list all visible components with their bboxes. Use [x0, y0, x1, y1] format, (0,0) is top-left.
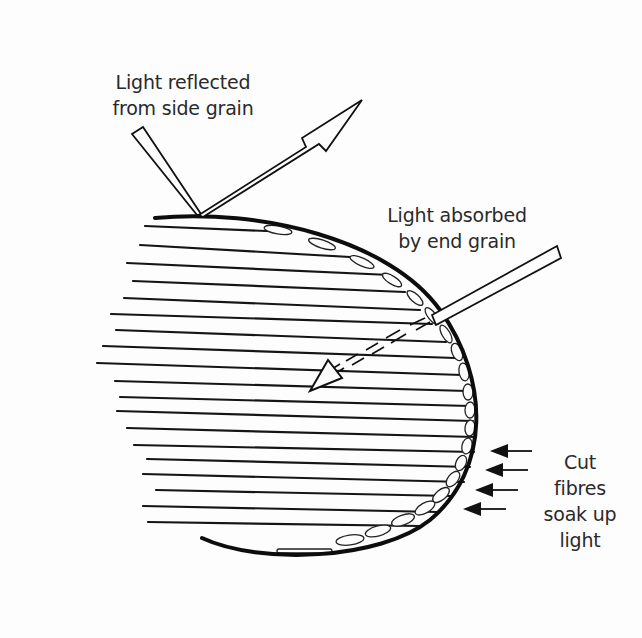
grain-lines — [97, 226, 475, 526]
label-line: Light absorbed — [382, 202, 532, 228]
label-cut-fibres: Cut fibres soak up light — [530, 449, 630, 553]
grain-line — [120, 397, 470, 406]
grain-line — [111, 314, 432, 324]
grain-line — [133, 281, 405, 292]
grain-line — [115, 381, 467, 391]
grain-line — [156, 490, 452, 496]
label-line: Cut — [530, 449, 630, 475]
wood-grain-light-diagram: Light reflected from side grain Light ab… — [0, 0, 642, 638]
grain-line — [124, 298, 420, 310]
arrow-left-icon — [463, 502, 506, 516]
grain-line — [97, 363, 462, 375]
label-light-absorbed: Light absorbed by end grain — [382, 202, 532, 254]
grain-line — [127, 263, 390, 275]
incident-beam-absorbed — [432, 246, 561, 325]
label-line: by end grain — [382, 228, 532, 254]
arrow-left-icon — [485, 463, 528, 477]
grain-line — [143, 506, 438, 512]
grain-line — [134, 445, 474, 452]
grain-line — [117, 411, 473, 421]
arrow-left-icon — [475, 483, 518, 497]
arrow-left-icon — [490, 444, 532, 458]
grain-line — [103, 346, 455, 358]
grain-line — [147, 459, 470, 467]
label-line: from side grain — [108, 95, 258, 121]
label-line: Light reflected — [108, 69, 258, 95]
grain-line — [143, 474, 464, 482]
label-line: soak up — [530, 501, 630, 527]
grain-line — [127, 428, 475, 437]
incident-beam-reflected — [132, 127, 201, 215]
label-line: fibres — [530, 475, 630, 501]
label-line: light — [530, 527, 630, 553]
label-light-reflected: Light reflected from side grain — [108, 69, 258, 121]
